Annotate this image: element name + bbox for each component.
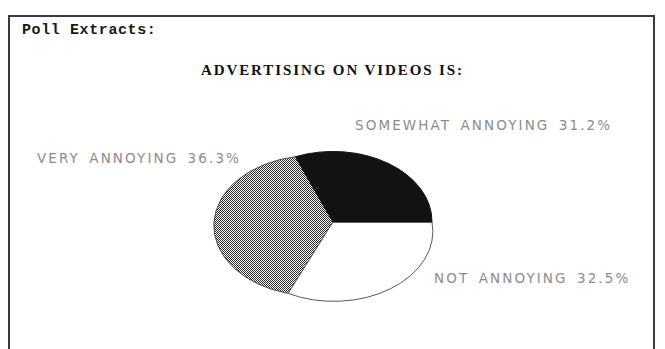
pie-label-somewhat-annoying: SOMEWHAT ANNOYING 31.2% <box>355 117 612 133</box>
pie-label-very-annoying: VERY ANNOYING 36.3% <box>37 150 241 166</box>
poll-extracts-caption: Poll Extracts: <box>22 22 156 39</box>
pie-label-not-annoying: NOT ANNOYING 32.5% <box>434 270 630 286</box>
chart-title: ADVERTISING ON VIDEOS IS: <box>0 62 665 79</box>
